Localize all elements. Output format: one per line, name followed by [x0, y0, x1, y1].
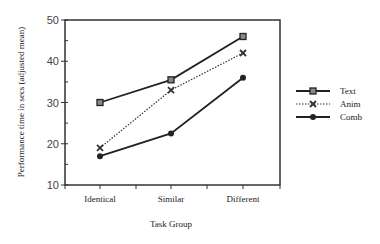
chart: 1020304050 IdenticalSimilarDifferent Per…	[0, 0, 380, 244]
x-tick-label: Identical	[84, 194, 116, 204]
y-tick-label: 30	[47, 97, 59, 109]
y-tick-label: 40	[47, 55, 59, 67]
x-tick-label: Similar	[158, 194, 185, 204]
legend: TextAnimComb	[296, 86, 363, 122]
legend-label: Text	[340, 86, 356, 96]
circle-marker	[310, 114, 316, 120]
legend-item-anim: Anim	[296, 99, 361, 109]
x-marker	[97, 145, 103, 151]
legend-item-text: Text	[296, 86, 356, 96]
legend-label: Comb	[340, 112, 363, 122]
circle-marker	[168, 130, 174, 136]
x-marker	[168, 87, 174, 93]
x-axis: IdenticalSimilarDifferent	[65, 185, 280, 204]
y-axis-title: Performance time in secs (adjusted mean)	[16, 27, 26, 178]
x-axis-title: Task Group	[150, 219, 193, 229]
series-comb	[97, 75, 246, 159]
square-marker	[240, 34, 246, 40]
series-text	[97, 34, 246, 106]
legend-item-comb: Comb	[296, 112, 363, 122]
square-marker	[97, 100, 103, 106]
square-marker	[310, 88, 316, 94]
circle-marker	[240, 75, 246, 81]
y-tick-label: 50	[47, 14, 59, 26]
line-chart: 1020304050 IdenticalSimilarDifferent Per…	[0, 0, 380, 244]
square-marker	[168, 77, 174, 83]
series-layer	[97, 34, 246, 160]
circle-marker	[97, 153, 103, 159]
x-marker	[240, 50, 246, 56]
y-tick-label: 10	[47, 179, 59, 191]
x-tick-label: Different	[227, 194, 260, 204]
legend-label: Anim	[340, 99, 361, 109]
y-tick-label: 20	[47, 138, 59, 150]
